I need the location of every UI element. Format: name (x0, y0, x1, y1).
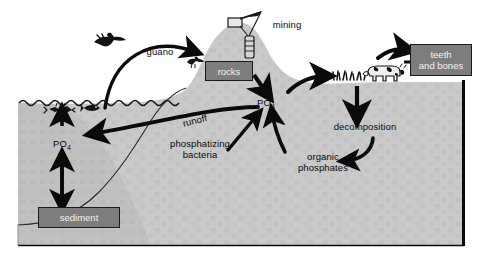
box-teeth-and-bones: teeth and bones (410, 44, 472, 76)
arrow-cow-to-teeth-bones (378, 49, 408, 58)
cow-icon (363, 64, 406, 81)
teeth-line-2: and bones (419, 60, 463, 71)
box-rocks: rocks (205, 61, 253, 81)
bird-icon (94, 33, 126, 47)
box-sediment: sediment (38, 207, 120, 228)
grass-icon (333, 71, 366, 80)
teeth-line-1: teeth (430, 49, 451, 60)
phosphorus-cycle-diagram: guano mining runoff phosphatizing bacter… (0, 0, 477, 268)
